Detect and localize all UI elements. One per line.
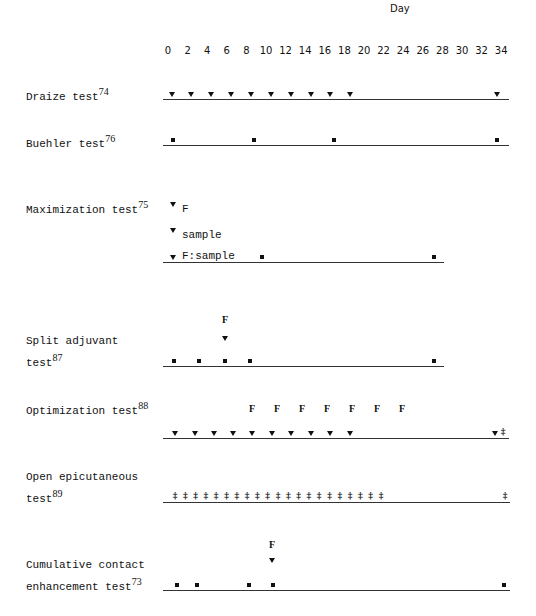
triangle-marker-icon bbox=[249, 431, 255, 436]
row-label-draize: Draize test74 bbox=[26, 90, 109, 104]
triangle-marker-icon bbox=[288, 92, 294, 97]
timeline-line-draize bbox=[163, 99, 509, 100]
square-marker-icon bbox=[175, 583, 179, 587]
f-marker: F bbox=[324, 404, 330, 414]
square-marker-icon bbox=[502, 583, 506, 587]
row-label-buehler: Buehler test76 bbox=[26, 137, 115, 151]
triangle-marker-icon bbox=[208, 92, 214, 97]
row-label-open-epicutaneous-line1: Open epicutaneous bbox=[26, 470, 138, 484]
row-label-cumulative-line1: Cumulative contact bbox=[26, 558, 145, 572]
double-dagger-marker-icon: ‡ bbox=[193, 492, 198, 501]
axis-tick-label: 0 bbox=[165, 45, 171, 56]
square-marker-icon bbox=[197, 359, 201, 363]
timeline-line-open-epicutaneous bbox=[163, 502, 510, 503]
double-dagger-marker-icon: ‡ bbox=[234, 492, 239, 501]
square-marker-icon bbox=[260, 255, 264, 259]
triangle-marker-icon bbox=[228, 92, 234, 97]
square-marker-icon bbox=[432, 359, 436, 363]
double-dagger-marker-icon: ‡ bbox=[501, 428, 506, 437]
double-dagger-marker-icon: ‡ bbox=[327, 492, 332, 501]
row-label-maximization: Maximization test75 bbox=[26, 203, 148, 217]
f-marker: F bbox=[374, 404, 380, 414]
row-label-split-adjuvant-line1: Split adjuvant bbox=[26, 334, 118, 348]
axis-tick-label: 18 bbox=[338, 45, 351, 56]
triangle-marker-icon bbox=[172, 431, 178, 436]
square-marker-icon bbox=[172, 359, 176, 363]
double-dagger-marker-icon: ‡ bbox=[183, 492, 188, 501]
triangle-marker-icon bbox=[188, 92, 194, 97]
double-dagger-marker-icon: ‡ bbox=[296, 492, 301, 501]
double-dagger-marker-icon: ‡ bbox=[214, 492, 219, 501]
axis-tick-label: 12 bbox=[279, 45, 292, 56]
square-marker-icon bbox=[432, 255, 436, 259]
triangle-marker-icon bbox=[269, 431, 275, 436]
axis-tick-label: 4 bbox=[204, 45, 210, 56]
triangle-marker-icon bbox=[230, 431, 236, 436]
triangle-marker-icon bbox=[288, 431, 294, 436]
row-label-open-epicutaneous-line2: test89 bbox=[26, 492, 62, 506]
triangle-marker-icon bbox=[169, 92, 175, 97]
triangle-marker-icon bbox=[170, 255, 176, 260]
timeline-line-split-adjuvant bbox=[163, 366, 444, 367]
f-marker: F bbox=[399, 404, 405, 414]
double-dagger-marker-icon: ‡ bbox=[337, 492, 342, 501]
annotation-sample: sample bbox=[182, 230, 222, 241]
f-marker: F bbox=[222, 315, 228, 325]
double-dagger-marker-icon: ‡ bbox=[286, 492, 291, 501]
triangle-marker-icon bbox=[269, 558, 275, 563]
square-marker-icon bbox=[495, 138, 499, 142]
double-dagger-marker-icon: ‡ bbox=[204, 492, 209, 501]
timeline-line-buehler bbox=[163, 145, 509, 146]
axis-tick-label: 8 bbox=[243, 45, 249, 56]
reference-75: 75 bbox=[138, 199, 148, 210]
square-marker-icon bbox=[248, 359, 252, 363]
annotation-f-sample: F:sample bbox=[182, 251, 235, 262]
axis-tick-label: 14 bbox=[299, 45, 312, 56]
reference-76: 76 bbox=[105, 133, 115, 144]
f-marker: F bbox=[269, 540, 275, 550]
axis-tick-label: 32 bbox=[475, 45, 488, 56]
double-dagger-marker-icon: ‡ bbox=[276, 492, 281, 501]
reference-74: 74 bbox=[99, 86, 109, 97]
timeline-line-optimization bbox=[163, 438, 509, 439]
double-dagger-marker-icon: ‡ bbox=[503, 492, 508, 501]
timeline-line-cumulative bbox=[163, 590, 510, 591]
triangle-marker-icon bbox=[308, 431, 314, 436]
triangle-marker-icon bbox=[327, 431, 333, 436]
triangle-marker-icon bbox=[494, 92, 500, 97]
triangle-marker-icon bbox=[327, 92, 333, 97]
test-protocol-timeline: Day 0246810121416182022242628303234 Drai… bbox=[0, 0, 536, 616]
reference-89: 89 bbox=[52, 488, 62, 499]
square-marker-icon bbox=[247, 583, 251, 587]
axis-tick-label: 22 bbox=[377, 45, 390, 56]
reference-87: 87 bbox=[52, 352, 62, 363]
square-marker-icon bbox=[223, 359, 227, 363]
triangle-marker-icon bbox=[492, 431, 498, 436]
axis-title: Day bbox=[390, 3, 410, 14]
axis-tick-label: 6 bbox=[224, 45, 230, 56]
square-marker-icon bbox=[332, 138, 336, 142]
triangle-marker-icon bbox=[347, 431, 353, 436]
triangle-marker-icon bbox=[192, 431, 198, 436]
square-marker-icon bbox=[271, 583, 275, 587]
f-marker: F bbox=[349, 404, 355, 414]
double-dagger-marker-icon: ‡ bbox=[368, 492, 373, 501]
triangle-marker-icon bbox=[347, 92, 353, 97]
double-dagger-marker-icon: ‡ bbox=[358, 492, 363, 501]
f-marker: F bbox=[274, 404, 280, 414]
double-dagger-marker-icon: ‡ bbox=[348, 492, 353, 501]
double-dagger-marker-icon: ‡ bbox=[265, 492, 270, 501]
double-dagger-marker-icon: ‡ bbox=[245, 492, 250, 501]
axis-tick-label: 34 bbox=[495, 45, 508, 56]
row-label-optimization: Optimization test88 bbox=[26, 404, 148, 418]
axis-tick-label: 30 bbox=[456, 45, 469, 56]
axis-tick-label: 26 bbox=[416, 45, 429, 56]
double-dagger-marker-icon: ‡ bbox=[307, 492, 312, 501]
triangle-marker-icon bbox=[248, 92, 254, 97]
axis-tick-label: 10 bbox=[260, 45, 273, 56]
annotation-f: F bbox=[182, 204, 189, 215]
double-dagger-marker-icon: ‡ bbox=[224, 492, 229, 501]
axis-tick-label: 16 bbox=[318, 45, 331, 56]
triangle-marker-icon bbox=[222, 336, 228, 341]
square-marker-icon bbox=[252, 138, 256, 142]
